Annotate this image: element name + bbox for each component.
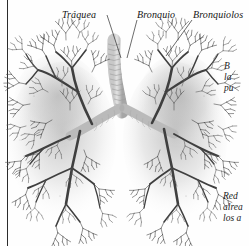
label-leader-lines bbox=[0, 0, 249, 246]
leader-line-bronquio bbox=[127, 20, 137, 58]
caption-line: la bbox=[224, 72, 234, 83]
caption-block-bronquios: B la pu bbox=[224, 61, 234, 94]
caption-line: B bbox=[224, 61, 234, 72]
figure-page: Tráquea Bronquio Bronquiolos B la pu Red… bbox=[0, 0, 249, 246]
label-traquea: Tráquea bbox=[62, 9, 96, 20]
leader-line-bronquiolos bbox=[166, 20, 192, 56]
label-bronquiolos: Bronquiolos bbox=[193, 9, 243, 20]
label-bronquio: Bronquio bbox=[137, 9, 175, 20]
caption-line: Red bbox=[223, 191, 243, 202]
caption-line: pu bbox=[224, 83, 234, 94]
caption-line: alrea bbox=[223, 202, 243, 213]
caption-block-red: Red alrea los a bbox=[223, 191, 243, 224]
leader-line-traquea bbox=[107, 15, 121, 58]
caption-line: los a bbox=[223, 213, 243, 224]
